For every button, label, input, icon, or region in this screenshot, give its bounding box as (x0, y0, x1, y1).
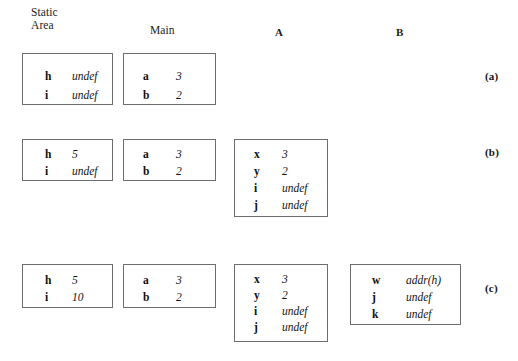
variable-value: 3 (176, 68, 182, 84)
variable-row: i10 (23, 289, 112, 305)
column-header-static-area: Static Area (31, 6, 58, 32)
frame-rows: x3y2iundefjundef (235, 140, 327, 216)
variable-name: y (254, 163, 260, 179)
variable-row: hundef (23, 68, 112, 84)
variable-row: jundef (235, 197, 327, 213)
variable-row: kundef (351, 306, 460, 322)
variable-value: undef (72, 163, 98, 179)
variable-row: h5 (23, 146, 112, 162)
frame-b-c: waddr(h)jundefkundef (350, 264, 461, 325)
variable-row: b2 (124, 87, 215, 103)
row-label-b: (b) (485, 146, 499, 158)
variable-value: undef (282, 197, 308, 213)
variable-row: a3 (124, 68, 215, 84)
variable-value: undef (282, 319, 308, 335)
variable-name: b (143, 289, 149, 305)
variable-name: x (254, 271, 260, 287)
variable-row: waddr(h) (351, 272, 460, 288)
variable-name: j (254, 319, 258, 335)
variable-row: iundef (235, 180, 327, 196)
variable-row: y2 (235, 163, 327, 179)
variable-row: jundef (235, 319, 327, 335)
variable-value: addr(h) (406, 272, 441, 288)
variable-name: h (45, 146, 51, 162)
variable-value: undef (72, 68, 98, 84)
frame-static-area-b: h5iundef (22, 139, 113, 181)
variable-value: 3 (282, 146, 288, 162)
variable-name: y (254, 287, 260, 303)
column-header-main: Main (150, 24, 175, 37)
variable-row: x3 (235, 271, 327, 287)
variable-value: undef (72, 87, 98, 103)
frame-a-b: x3y2iundefjundef (234, 139, 328, 217)
frame-rows: h5i10 (23, 265, 112, 307)
variable-value: 2 (176, 163, 182, 179)
frame-main-a: a3b2 (123, 53, 216, 105)
variable-value: 2 (282, 163, 288, 179)
variable-row: x3 (235, 146, 327, 162)
frame-rows: h5iundef (23, 140, 112, 180)
frame-main-c: a3b2 (123, 264, 216, 308)
variable-name: h (45, 272, 51, 288)
variable-row: a3 (124, 272, 215, 288)
frame-rows: a3b2 (124, 265, 215, 307)
frame-static-area-c: h5i10 (22, 264, 113, 308)
variable-name: j (254, 197, 258, 213)
variable-name: k (372, 306, 378, 322)
variable-name: b (143, 87, 149, 103)
frame-main-b: a3b2 (123, 139, 216, 181)
frame-static-area-a: hundefiundef (22, 53, 113, 105)
variable-value: 3 (282, 271, 288, 287)
variable-value: 3 (176, 272, 182, 288)
frame-rows: a3b2 (124, 54, 215, 104)
variable-row: jundef (351, 289, 460, 305)
variable-value: undef (406, 289, 432, 305)
variable-row: b2 (124, 289, 215, 305)
frame-rows: hundefiundef (23, 54, 112, 104)
variable-row: y2 (235, 287, 327, 303)
frame-rows: x3y2iundefjundef (235, 265, 327, 341)
variable-name: w (372, 272, 380, 288)
row-label-a: (a) (485, 70, 498, 82)
variable-row: b2 (124, 163, 215, 179)
variable-row: iundef (235, 303, 327, 319)
variable-value: undef (282, 180, 308, 196)
frame-rows: a3b2 (124, 140, 215, 180)
variable-name: b (143, 163, 149, 179)
variable-name: i (45, 163, 48, 179)
variable-value: 10 (72, 289, 84, 305)
variable-value: 3 (176, 146, 182, 162)
variable-value: 2 (176, 289, 182, 305)
row-label-c: (c) (485, 282, 498, 294)
variable-row: iundef (23, 163, 112, 179)
frame-a-c: x3y2iundefjundef (234, 264, 328, 342)
column-header-a: A (275, 26, 283, 39)
variable-name: i (45, 289, 48, 305)
variable-name: x (254, 146, 260, 162)
variable-name: h (45, 68, 51, 84)
variable-row: h5 (23, 272, 112, 288)
variable-row: iundef (23, 87, 112, 103)
variable-value: undef (282, 303, 308, 319)
variable-value: 5 (72, 272, 78, 288)
frame-rows: waddr(h)jundefkundef (351, 265, 460, 324)
variable-value: undef (406, 306, 432, 322)
variable-value: 5 (72, 146, 78, 162)
variable-name: i (254, 180, 257, 196)
variable-name: i (254, 303, 257, 319)
variable-name: a (143, 68, 149, 84)
variable-name: a (143, 272, 149, 288)
diagram-canvas: Static Area Main A B (a) (b) (c) hundefi… (0, 0, 518, 361)
variable-name: i (45, 87, 48, 103)
variable-value: 2 (176, 87, 182, 103)
variable-row: a3 (124, 146, 215, 162)
column-header-b: B (396, 26, 403, 39)
variable-name: a (143, 146, 149, 162)
variable-value: 2 (282, 287, 288, 303)
variable-name: j (372, 289, 376, 305)
